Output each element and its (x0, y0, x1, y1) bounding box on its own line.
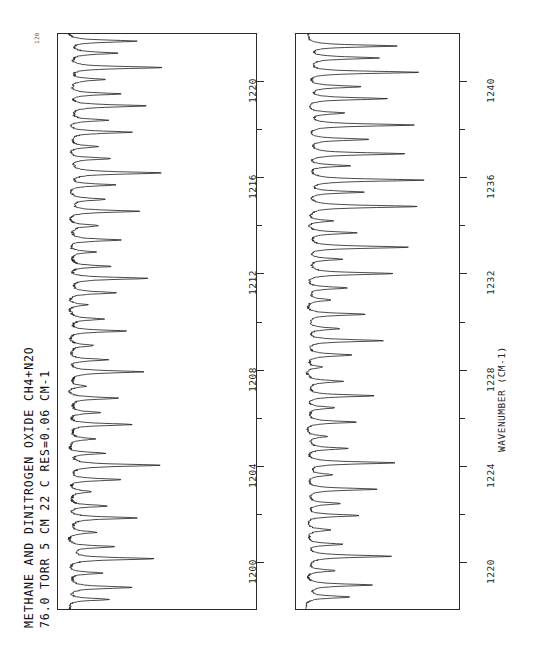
axis-tick-label: 1212 (247, 271, 258, 296)
axis-tick-label: 1208 (247, 367, 258, 392)
axis-tick-label: 1224 (485, 463, 496, 488)
axis-tick-label: 1228 (485, 367, 496, 392)
spectrum-panel-lower (295, 33, 460, 610)
axis-tick (460, 273, 467, 274)
axis-tick-label: 1204 (247, 463, 258, 488)
axis-tick (460, 81, 467, 82)
axis-tick-label: 1200 (247, 559, 258, 584)
axis-tick (257, 273, 264, 274)
axis-minor-tick (460, 322, 465, 323)
chart-title-line2: 76.0 TORR 5 CM 22 C RES=0.06 CM-1 (38, 370, 52, 628)
axis-tick (460, 562, 467, 563)
axis-tick (460, 177, 467, 178)
axis-tick-label: 1220 (485, 559, 496, 584)
axis-tick (257, 466, 264, 467)
axis-tick (460, 466, 467, 467)
axis-tick-label: 1216 (247, 174, 258, 199)
axis-minor-tick (460, 418, 465, 419)
spectrum-trace-upper (58, 34, 256, 609)
axis-tick (257, 370, 264, 371)
axis-minor-tick (257, 225, 262, 226)
axis-minor-tick (257, 514, 262, 515)
spectrum-trace-lower (296, 34, 459, 609)
axis-minor-tick (460, 129, 465, 130)
axis-tick (460, 370, 467, 371)
chart-title-line1: METHANE AND DINITROGEN OXIDE CH4+N2O (22, 346, 36, 628)
axis-minor-tick (257, 322, 262, 323)
axis-minor-tick (460, 225, 465, 226)
spectrum-panel-upper (57, 33, 257, 610)
spectrum-figure: METHANE AND DINITROGEN OXIDE CH4+N2O 76.… (0, 0, 536, 650)
axis-minor-tick (460, 514, 465, 515)
y-axis-max-label: 120 (33, 32, 40, 44)
axis-minor-tick (257, 129, 262, 130)
axis-tick (257, 81, 264, 82)
x-axis-title: WAVENUMBER (CM-1) (496, 346, 507, 452)
axis-tick (257, 177, 264, 178)
axis-tick-label: 1220 (247, 78, 258, 103)
axis-minor-tick (257, 418, 262, 419)
axis-tick-label: 1236 (485, 174, 496, 199)
axis-tick (257, 562, 264, 563)
axis-tick-label: 1232 (485, 271, 496, 296)
axis-tick-label: 1240 (485, 78, 496, 103)
